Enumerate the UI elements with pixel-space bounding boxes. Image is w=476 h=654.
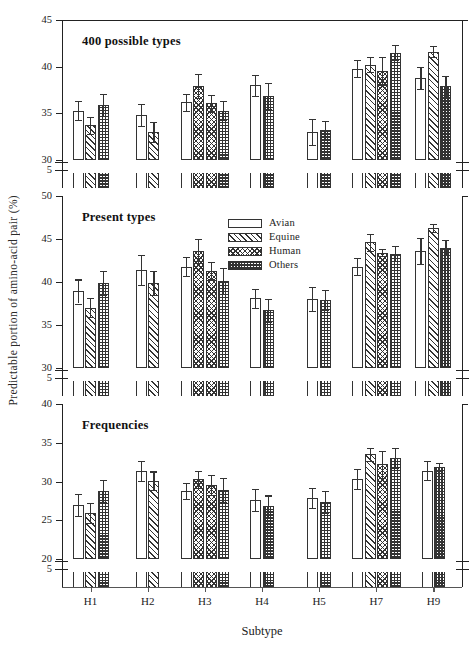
x-tick-label-h3: H3 (185, 595, 225, 607)
bar (148, 481, 159, 559)
error-bar-cap (436, 471, 443, 472)
error-bar (382, 451, 383, 477)
x-tick-label-h1: H1 (71, 595, 111, 607)
error-bar-cap (208, 475, 215, 476)
axis-break-tick-label: 5 (22, 564, 52, 575)
legend-swatch-avian-icon (228, 219, 262, 228)
x-tick (433, 587, 434, 592)
legend-item-equine[interactable]: Equine (228, 231, 301, 244)
error-bar-cap (150, 471, 157, 472)
x-tick (376, 587, 377, 592)
error-bar-cap (424, 480, 431, 481)
error-bar (186, 483, 187, 499)
legend-label: Human (269, 246, 301, 257)
x-tick-label-h9: H9 (413, 595, 453, 607)
x-tick (319, 587, 320, 592)
bar-break-stub (85, 572, 96, 587)
error-bar-cap (220, 478, 227, 479)
y-tick-label: 40 (22, 399, 52, 410)
panel-title: Frequencies (82, 418, 149, 433)
error-bar (103, 480, 104, 502)
x-tick-label-h5: H5 (299, 595, 339, 607)
error-bar-cap (150, 490, 157, 491)
error-bar-cap (195, 471, 202, 472)
bar-break-stub (377, 572, 388, 587)
panel-frequencies: 20253035405Frequencies (0, 0, 476, 654)
legend-item-others[interactable]: Others (228, 259, 301, 272)
error-bar-cap (252, 511, 259, 512)
error-bar-cap (75, 516, 82, 517)
error-bar (153, 471, 154, 490)
legend-label: Others (269, 260, 298, 271)
bar-break-stub (218, 572, 229, 587)
bar (181, 491, 192, 559)
error-bar (141, 461, 142, 481)
error-bar-cap (87, 503, 94, 504)
y-tick-label: 35 (22, 438, 52, 449)
x-tick (262, 587, 263, 592)
x-tick-label-h7: H7 (356, 595, 396, 607)
bar-break-stub (148, 572, 159, 587)
error-bar (211, 475, 212, 495)
error-bar-cap (183, 483, 190, 484)
error-bar-cap (322, 513, 329, 514)
bar (390, 458, 401, 559)
bar-break-stub (390, 572, 401, 587)
bar-break-stub (136, 572, 147, 587)
error-bar-cap (100, 480, 107, 481)
y-tick (56, 559, 62, 560)
bar-break-stub (193, 572, 204, 587)
bar-break-stub (307, 572, 318, 587)
bar-break-stub (250, 572, 261, 587)
error-bar (357, 469, 358, 489)
y-tick (56, 404, 62, 405)
legend-item-avian[interactable]: Avian (228, 217, 301, 230)
bar-break-stub (320, 572, 331, 587)
y-tick (56, 482, 62, 483)
legend-swatch-human-icon (228, 247, 262, 256)
error-bar-cap (392, 448, 399, 449)
y-tick-right (462, 404, 468, 405)
bar (365, 454, 376, 559)
y-tick-label: 30 (22, 477, 52, 488)
error-bar-cap (309, 508, 316, 509)
error-bar (90, 503, 91, 523)
x-tick (148, 587, 149, 592)
error-bar-cap (220, 502, 227, 503)
error-bar-cap (87, 523, 94, 524)
error-bar (427, 461, 428, 480)
error-bar-cap (265, 517, 272, 518)
error-bar-cap (379, 478, 386, 479)
error-bar-cap (436, 463, 443, 464)
legend-swatch-others-icon (228, 261, 262, 270)
bar-break-stub (352, 572, 363, 587)
legend-swatch-equine-icon (228, 233, 262, 242)
bar-break-stub (434, 572, 445, 587)
error-bar (78, 494, 79, 516)
y-tick (56, 443, 62, 444)
legend-label: Avian (269, 218, 295, 229)
error-bar-cap (100, 502, 107, 503)
error-bar-cap (208, 495, 215, 496)
error-bar-cap (392, 468, 399, 469)
error-bar-cap (183, 499, 190, 500)
bar (193, 479, 204, 559)
error-bar-cap (195, 488, 202, 489)
x-axis-title: Subtype (62, 624, 462, 639)
x-tick-label-h2: H2 (128, 595, 168, 607)
x-tick-label-h4: H4 (242, 595, 282, 607)
error-bar-cap (138, 481, 145, 482)
error-bar-cap (354, 489, 361, 490)
error-bar (223, 478, 224, 501)
error-bar (325, 491, 326, 513)
bar-break-stub (181, 572, 192, 587)
error-bar-cap (75, 494, 82, 495)
error-bar-cap (309, 488, 316, 489)
legend-item-human[interactable]: Human (228, 245, 301, 258)
error-bar (439, 463, 440, 471)
error-bar (268, 495, 269, 517)
y-tick-label: 25 (22, 515, 52, 526)
error-bar-cap (379, 451, 386, 452)
error-bar-cap (252, 489, 259, 490)
error-bar-cap (322, 491, 329, 492)
